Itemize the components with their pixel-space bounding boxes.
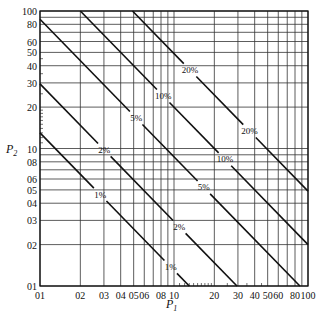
y-tick-label: 01 [27,281,37,292]
series-segment [177,273,189,286]
y-axis-title: P2 [5,142,17,158]
series-label: 10% [217,154,234,164]
y-tick-label: 100 [22,6,37,17]
series-label: 5% [130,113,143,123]
series-label: 5% [198,182,211,192]
series-segment [40,133,94,188]
x-tick-label: 40 [250,290,260,301]
y-tick-label: 05 [27,185,37,196]
series-label: 20% [241,126,258,136]
series-segment [106,201,164,260]
y-tick-label: 50 [27,47,37,58]
series-label: 20% [182,65,199,75]
series-label: 2% [98,145,111,155]
series-segment [40,84,98,144]
y-tick-label: 06 [27,174,37,185]
x-tick-label: 20 [209,290,219,301]
gridlines [40,11,308,286]
x-axis-tick-labels: 0102030405060810203040506080100 [35,290,316,301]
x-tick-label: 80 [290,290,300,301]
series-label: 1% [165,262,178,272]
x-tick-label: 05 [129,290,139,301]
y-axis-tick-labels: 0102030405060810203040506080100 [22,6,37,292]
series-1pct: 1%1% [40,133,189,286]
y-tick-label: 10 [27,144,37,155]
series-label: 10% [155,91,172,101]
series-segment [80,11,157,90]
y-tick-label: 40 [27,61,37,72]
series-segment [231,166,308,245]
y-tick-label: 30 [27,78,37,89]
x-tick-label: 100 [301,290,316,301]
series-segment [256,138,308,192]
x-tick-label: 50 [263,290,273,301]
series-5pct: 5%5% [40,19,300,286]
x-tick-label: 08 [156,290,166,301]
series-segment [186,233,237,286]
x-tick-label: 60 [273,290,283,301]
y-tick-label: 03 [27,215,37,226]
y-tick-label: 80 [27,19,37,30]
x-tick-label: 30 [233,290,243,301]
log-log-chart: 1%1%2%2%5%5%10%10%20%20% 010203040506081… [0,0,321,321]
y-tick-label: 02 [27,240,37,251]
y-tick-label: 60 [27,37,37,48]
y-tick-label: 04 [27,198,37,209]
x-tick-label: 06 [139,290,149,301]
x-tick-label: 04 [116,290,126,301]
series-segment [196,77,243,125]
series-segment [169,102,218,152]
x-tick-label: 02 [75,290,85,301]
minor-ticks [40,59,262,286]
series-label: 2% [173,222,186,232]
series-label: 1% [94,190,107,200]
series-segment [111,156,173,220]
y-tick-label: 20 [27,102,37,113]
series-segment [132,11,183,64]
y-tick-label: 08 [27,157,37,168]
series-segment [142,124,197,181]
x-tick-label: 03 [99,290,109,301]
